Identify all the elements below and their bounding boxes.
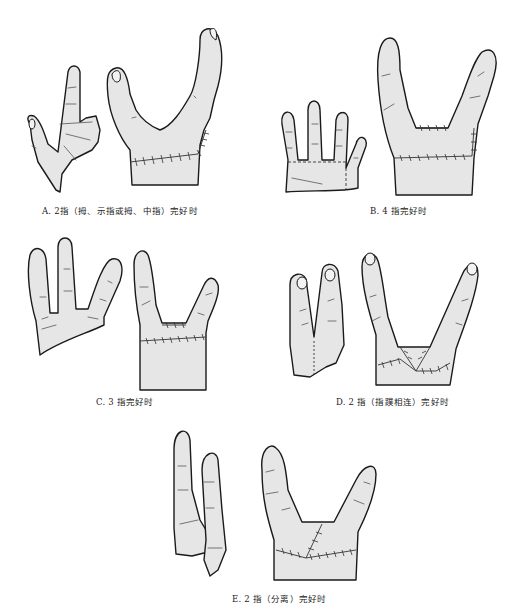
panel-a-caption: A. 2指（拇、示指或拇、中指）完好时 bbox=[42, 204, 198, 216]
panel-b-amputated-fingers bbox=[282, 101, 366, 192]
panel-a-donor-hand bbox=[28, 66, 100, 192]
panel-d-caption: D. 2 指（指蹼相连）完好时 bbox=[336, 395, 449, 407]
panel-b: B. 4 指完好时 bbox=[266, 0, 532, 225]
panel-e-illustration bbox=[0, 420, 532, 585]
panel-e: E. 2 指（分离）完好时 bbox=[0, 420, 532, 610]
panel-a-reconstructed-hand bbox=[107, 28, 222, 185]
panel-e-reconstructed-hand bbox=[262, 446, 376, 580]
panel-e-separated-fingers bbox=[174, 431, 226, 576]
panel-c-caption: C. 3 指完好时 bbox=[96, 395, 154, 407]
panel-b-illustration bbox=[266, 0, 532, 200]
panel-a-illustration bbox=[0, 0, 266, 200]
panel-c-three-fingers bbox=[28, 238, 122, 355]
panel-a: A. 2指（拇、示指或拇、中指）完好时 bbox=[0, 0, 266, 225]
panel-d-reconstructed-hand bbox=[362, 253, 478, 385]
panel-d-joined-fingers bbox=[290, 264, 344, 377]
panel-c-illustration bbox=[0, 225, 266, 390]
panel-d: D. 2 指（指蹼相连）完好时 bbox=[266, 225, 532, 420]
panel-c-reconstructed-hand bbox=[134, 251, 218, 390]
panel-d-illustration bbox=[266, 225, 532, 390]
panel-c: C. 3 指完好时 bbox=[0, 225, 266, 420]
panel-e-caption: E. 2 指（分离）完好时 bbox=[232, 592, 326, 604]
panel-b-reconstructed-hand bbox=[378, 38, 496, 195]
panel-b-caption: B. 4 指完好时 bbox=[370, 204, 428, 216]
